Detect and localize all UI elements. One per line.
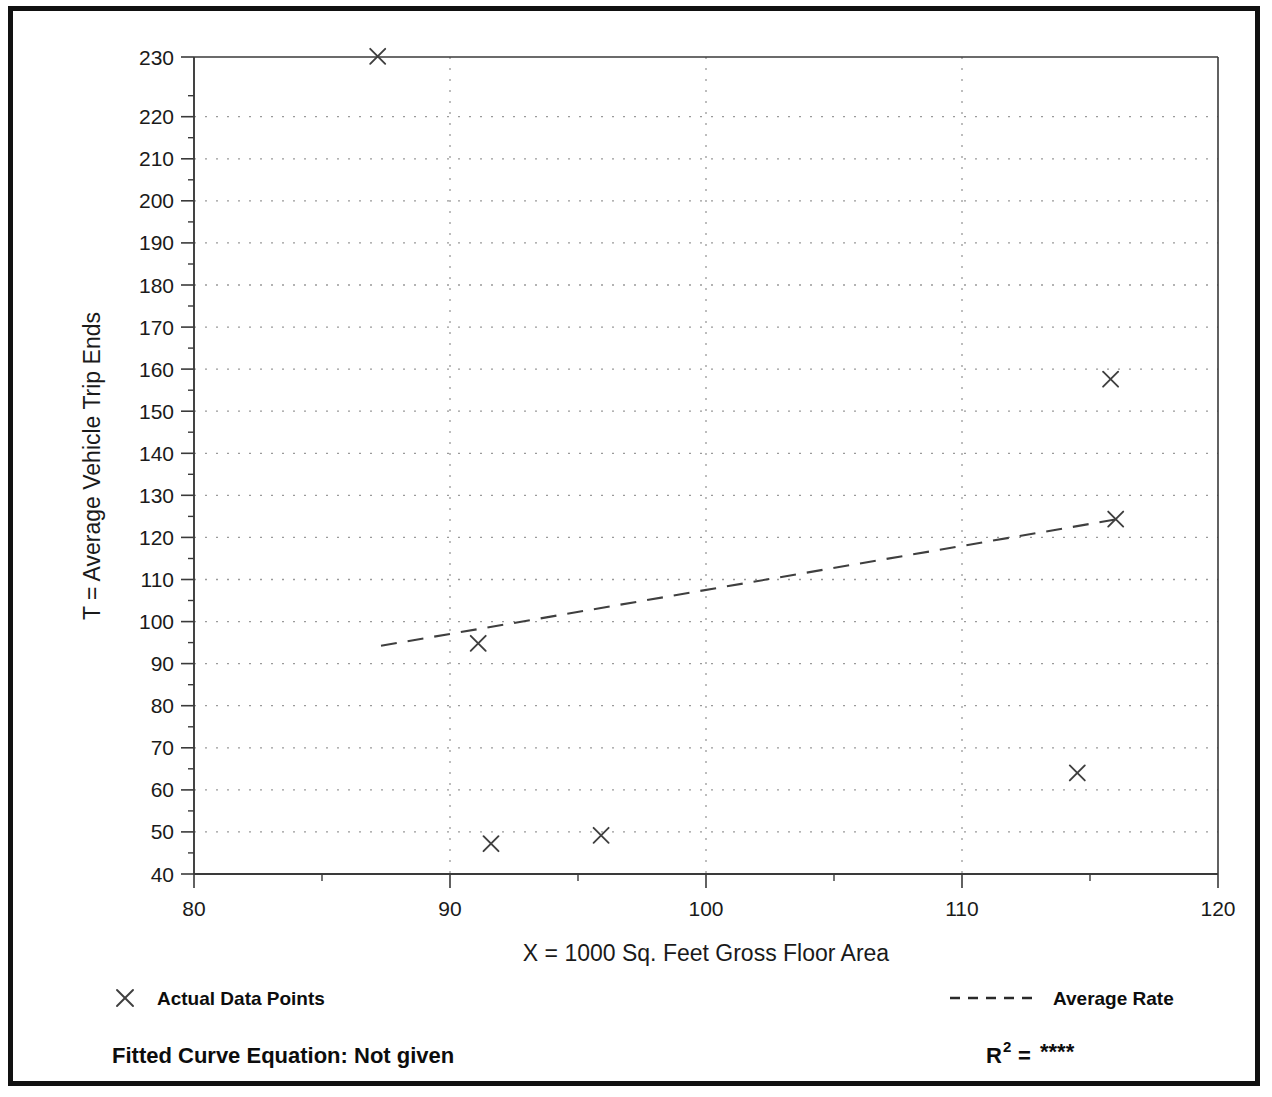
r-squared-symbol: R	[986, 1043, 1002, 1068]
legend-item-average-rate[interactable]: Average Rate	[950, 988, 1174, 1009]
data-point-marker	[594, 828, 609, 843]
legend-label-average-rate: Average Rate	[1053, 988, 1174, 1009]
r-squared-stars: ****	[1040, 1039, 1075, 1064]
y-tick-label: 170	[139, 316, 174, 339]
y-axis-tick-labels: 40 50 60 70 80 90 100 110 120 130 140 15…	[139, 46, 174, 886]
data-point-marker	[471, 636, 486, 651]
x-marker-icon	[117, 990, 133, 1006]
footer: Fitted Curve Equation: Not given R 2 = *…	[112, 1038, 1075, 1068]
y-tick-label: 150	[139, 400, 174, 423]
plot-area	[181, 49, 1218, 888]
y-tick-label: 120	[139, 526, 174, 549]
y-tick-label: 110	[141, 568, 174, 591]
x-tick-label: 80	[182, 897, 205, 920]
r-squared-exponent: 2	[1003, 1038, 1011, 1055]
y-tick-label: 70	[151, 736, 174, 759]
y-tick-label: 160	[139, 358, 174, 381]
data-point-marker	[484, 836, 499, 851]
y-tick-label: 50	[151, 820, 174, 843]
y-axis-title: T = Average Vehicle Trip Ends	[79, 312, 105, 620]
data-points	[370, 49, 1123, 851]
x-axis-major-ticks	[194, 874, 1218, 888]
y-tick-label: 180	[139, 274, 174, 297]
y-tick-label: 140	[139, 442, 174, 465]
legend-label-actual-data-points: Actual Data Points	[157, 988, 325, 1009]
y-tick-label: 40	[151, 863, 174, 886]
data-point-marker	[1108, 512, 1123, 527]
x-tick-label: 100	[688, 897, 723, 920]
data-point-marker	[1103, 372, 1118, 387]
y-tick-label: 60	[151, 778, 174, 801]
r-squared-equals: =	[1018, 1043, 1031, 1068]
x-tick-label: 120	[1200, 897, 1235, 920]
y-tick-label: 230	[139, 46, 174, 69]
fitted-curve-equation-label: Fitted Curve Equation: Not given	[112, 1043, 454, 1068]
x-tick-label: 110	[945, 897, 978, 920]
y-tick-label: 190	[139, 231, 174, 254]
y-tick-label: 80	[151, 694, 174, 717]
y-tick-label: 200	[139, 189, 174, 212]
legend: Actual Data Points Average Rate	[117, 988, 1174, 1009]
y-tick-label: 100	[139, 610, 174, 633]
y-tick-label: 130	[139, 484, 174, 507]
y-tick-label: 220	[139, 105, 174, 128]
x-axis-tick-labels: 80 90 100 110 120	[182, 897, 1235, 920]
x-axis-title: X = 1000 Sq. Feet Gross Floor Area	[523, 940, 889, 966]
scatter-chart: 40 50 60 70 80 90 100 110 120 130 140 15…	[0, 0, 1272, 1097]
vertical-gridlines	[450, 57, 962, 874]
legend-item-actual-data-points[interactable]: Actual Data Points	[117, 988, 325, 1009]
figure-page: 40 50 60 70 80 90 100 110 120 130 140 15…	[0, 0, 1272, 1097]
data-point-marker	[1070, 765, 1085, 780]
average-rate-trend-line	[381, 519, 1118, 646]
x-tick-label: 90	[438, 897, 461, 920]
y-tick-label: 90	[151, 652, 174, 675]
r-squared-value: R 2 = ****	[986, 1038, 1075, 1068]
y-tick-label: 210	[139, 147, 174, 170]
